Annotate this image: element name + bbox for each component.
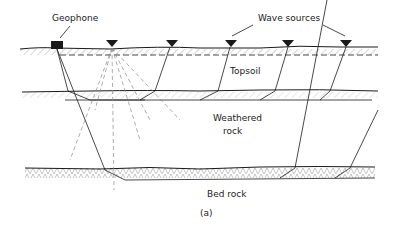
bedrock-boundary [25, 167, 375, 181]
bed-rock-label: Bed rock [207, 189, 246, 199]
weathered-label: Weathered [213, 113, 262, 123]
geophone-icon [51, 41, 63, 49]
geophone-label: Geophone [52, 13, 98, 23]
wave-sources-label: Wave sources [258, 13, 320, 23]
ground-surface [20, 46, 378, 55]
topsoil-label: Topsoil [230, 66, 260, 76]
figure-caption: (a) [200, 208, 213, 218]
diagram-graphic [0, 0, 399, 227]
seismic-refraction-diagram: Geophone Wave sources Topsoil Weathered … [0, 0, 399, 227]
rock-label: rock [223, 126, 242, 136]
